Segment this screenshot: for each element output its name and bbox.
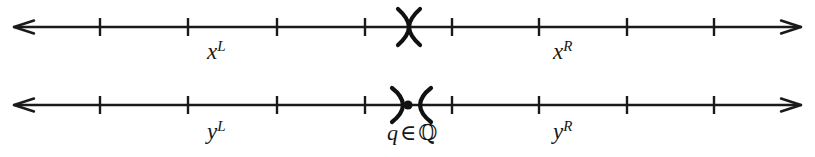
number-line-x xyxy=(14,9,801,45)
rationals-set-symbol: ℚ xyxy=(418,120,437,145)
rational-point-dot xyxy=(403,100,412,109)
label-y-left-base: y xyxy=(207,119,217,144)
label-x-right: xR xyxy=(553,40,572,63)
label-rational-membership: q∈ℚ xyxy=(387,122,437,144)
label-y-right-base: y xyxy=(553,119,563,144)
label-y-left-sup: L xyxy=(217,118,225,134)
label-y-right-sup: R xyxy=(563,118,572,134)
label-x-left-base: x xyxy=(207,39,217,64)
number-line-y xyxy=(14,88,801,122)
label-y-right: yR xyxy=(553,120,572,143)
label-y-left: yL xyxy=(207,120,226,143)
label-x-right-sup: R xyxy=(563,38,572,54)
label-x-left-sup: L xyxy=(217,38,225,54)
rational-variable: q xyxy=(387,120,398,145)
element-of-icon: ∈ xyxy=(398,120,418,145)
label-x-right-base: x xyxy=(553,39,563,64)
label-x-left: xL xyxy=(207,40,226,63)
number-line-figure: xL xR yL yR q∈ℚ xyxy=(0,0,815,157)
